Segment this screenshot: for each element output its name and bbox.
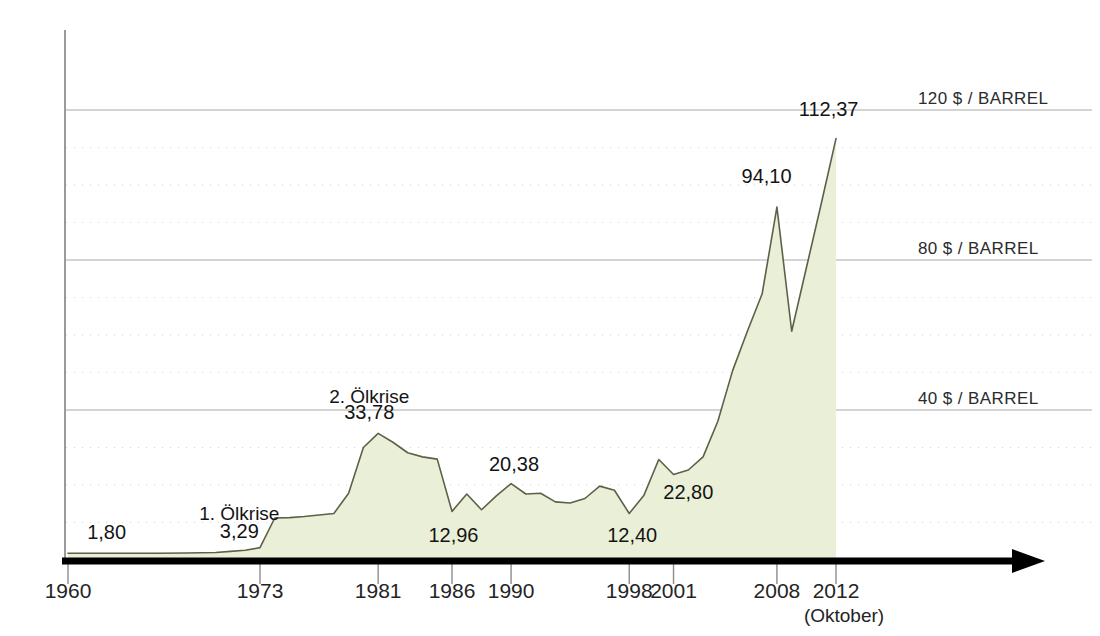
- annotation-20-38: 20,38: [489, 453, 539, 475]
- annotation-12-40: 12,40: [607, 524, 657, 546]
- annotation-33-78: 33,78: [344, 401, 394, 423]
- x-axis-label-1960: 1960: [45, 579, 92, 602]
- x-axis-label-1981: 1981: [355, 579, 402, 602]
- annotation-22-80: 22,80: [663, 481, 713, 503]
- minor-gridlines: [66, 148, 1092, 523]
- x-axis-sublabel-oktober: (Oktober): [804, 605, 884, 626]
- oil-price-chart: 120 $ / BARREL80 $ / BARREL40 $ / BARREL…: [0, 0, 1100, 636]
- y-axis-label-40: 40 $ / BARREL: [918, 389, 1038, 408]
- x-axis-labels: 196019731981198619901998200120082012(Okt…: [45, 579, 884, 626]
- annotation-3-29: 3,29: [220, 520, 259, 542]
- series-group: [68, 139, 836, 560]
- annotation-12-96: 12,96: [428, 524, 478, 546]
- x-axis-label-2012: 2012: [813, 579, 860, 602]
- major-gridlines: [66, 110, 1092, 410]
- x-axis-label-1973: 1973: [237, 579, 284, 602]
- price-area-fill: [68, 139, 836, 560]
- annotation-94-10: 94,10: [742, 165, 792, 187]
- x-axis-label-1986: 1986: [429, 579, 476, 602]
- x-axis-label-1998: 1998: [606, 579, 653, 602]
- annotation-112-37: 112,37: [799, 98, 859, 120]
- y-axis-labels: 120 $ / BARREL80 $ / BARREL40 $ / BARREL: [918, 89, 1048, 408]
- chart-canvas: 120 $ / BARREL80 $ / BARREL40 $ / BARREL…: [0, 0, 1100, 636]
- x-axis-label-2001: 2001: [650, 579, 697, 602]
- y-axis-label-80: 80 $ / BARREL: [918, 239, 1038, 258]
- x-axis-label-1990: 1990: [488, 579, 535, 602]
- y-axis-label-120: 120 $ / BARREL: [918, 89, 1048, 108]
- annotation-1-80: 1,80: [87, 521, 126, 543]
- x-axis-label-2008: 2008: [754, 579, 801, 602]
